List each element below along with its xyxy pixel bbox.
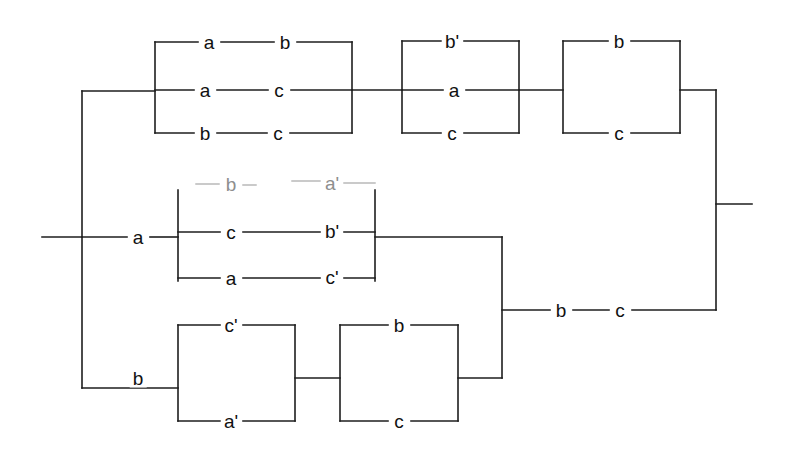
element-label: b [223, 175, 240, 194]
element-label: a [223, 269, 240, 288]
element-label: b [197, 124, 214, 143]
element-label: b [391, 316, 408, 335]
wire-group [42, 41, 752, 421]
element-label: c' [322, 268, 341, 287]
element-label: b [611, 32, 628, 51]
element-label: b [553, 301, 570, 320]
element-label: c [611, 124, 627, 143]
element-label: c [271, 81, 287, 100]
element-label: a [197, 81, 214, 100]
element-label: b' [442, 32, 462, 51]
element-label: c' [221, 316, 240, 335]
element-label: a [446, 81, 463, 100]
element-label: b [277, 33, 294, 52]
circuit-wires-canvas [0, 0, 785, 454]
element-label: c [612, 301, 628, 320]
element-label: b' [322, 222, 342, 241]
element-label: a' [322, 174, 342, 193]
element-label: c [223, 223, 239, 242]
element-label: a' [221, 412, 241, 431]
circuit-diagram: abacbcb'acbcaba'cb'ac'bc'a'bcbc [0, 0, 785, 454]
element-label: c [444, 124, 460, 143]
element-label: a [130, 228, 147, 247]
element-label: b [130, 369, 147, 388]
element-label: a [201, 33, 218, 52]
element-label: c [391, 412, 407, 431]
element-label: c [270, 124, 286, 143]
